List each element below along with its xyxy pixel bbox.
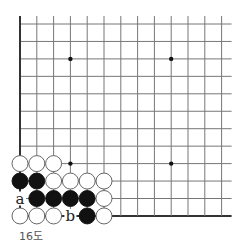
black-stone (79, 191, 95, 207)
white-stone (96, 208, 112, 224)
white-stone (96, 173, 112, 189)
go-board: ab (0, 0, 244, 245)
white-stone (12, 208, 28, 224)
white-stone (29, 208, 45, 224)
white-stone (29, 156, 45, 172)
white-stone (46, 208, 62, 224)
black-stone (29, 191, 45, 207)
black-stone (79, 208, 95, 224)
star-point-icon (169, 57, 173, 61)
black-stone (12, 173, 28, 189)
point-label-a: a (16, 190, 25, 208)
star-point-icon (68, 161, 72, 165)
black-stone (29, 173, 45, 189)
black-stone (62, 191, 78, 207)
star-point-icon (68, 57, 72, 61)
star-point-icon (169, 161, 173, 165)
white-stone (96, 191, 112, 207)
point-label-b: b (66, 207, 76, 225)
white-stone (62, 173, 78, 189)
white-stone (46, 156, 62, 172)
white-stone (12, 156, 28, 172)
white-stone (79, 173, 95, 189)
stones (12, 156, 112, 224)
white-stone (46, 173, 62, 189)
black-stone (46, 191, 62, 207)
diagram-caption: 16도 (19, 227, 43, 243)
